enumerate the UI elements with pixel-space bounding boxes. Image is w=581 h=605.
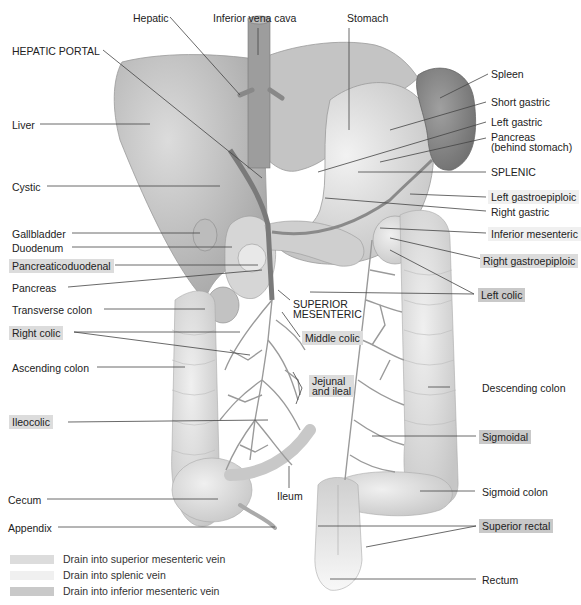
label-spleen: Spleen	[491, 68, 524, 80]
label-left-gastroepiploic: Left gastroepiploic	[488, 190, 579, 204]
label-descending-colon: Descending colon	[482, 382, 565, 394]
label-right-colic: Right colic	[9, 326, 63, 340]
label-sigmoid-colon: Sigmoid colon	[482, 486, 548, 498]
label-ileocolic: Ileocolic	[9, 415, 53, 429]
label-short-gastric: Short gastric	[491, 96, 550, 108]
label-ileum: Ileum	[277, 490, 303, 502]
label-superior-mesenteric: SUPERIOR MESENTERIC	[293, 299, 362, 319]
label-jejunal-and-ileal: Jejunal and ileal	[309, 375, 354, 397]
label-duodenum: Duodenum	[12, 242, 63, 254]
label-hepatic-portal: HEPATIC PORTAL	[12, 45, 100, 57]
label-rectum: Rectum	[482, 574, 518, 586]
jejunal-line-2: and ileal	[312, 385, 351, 397]
pancreas-line-2: (behind stomach)	[491, 141, 572, 153]
descending-colon-shape	[400, 210, 458, 506]
label-pancreas-behind-stomach: Pancreas (behind stomach)	[491, 132, 572, 152]
label-right-gastroepiploic: Right gastroepiploic	[480, 254, 578, 268]
legend-label: Drain into inferior mesenteric vein	[63, 585, 219, 597]
label-inferior-mesenteric: Inferior mesenteric	[488, 227, 581, 241]
label-superior-rectal: Superior rectal	[479, 519, 553, 533]
label-right-gastric: Right gastric	[491, 206, 549, 218]
label-cecum: Cecum	[8, 494, 41, 506]
label-left-colic: Left colic	[478, 288, 525, 302]
legend-label: Drain into splenic vein	[63, 569, 166, 581]
label-stomach: Stomach	[347, 12, 388, 24]
legend-item-splenic: Drain into splenic vein	[10, 569, 350, 583]
label-cystic: Cystic	[12, 181, 41, 193]
legend-item-superior-mesenteric: Drain into superior mesenteric vein	[10, 553, 350, 567]
label-left-gastric: Left gastric	[491, 116, 542, 128]
superior-mesenteric-line-2: MESENTERIC	[293, 308, 362, 320]
label-pancreas: Pancreas	[12, 282, 56, 294]
label-splenic: SPLENIC	[491, 166, 536, 178]
legend-swatch	[10, 555, 54, 564]
legend-label: Drain into superior mesenteric vein	[63, 553, 225, 565]
label-sigmoidal: Sigmoidal	[479, 430, 531, 444]
legend-item-inferior-mesenteric: Drain into inferior mesenteric vein	[10, 585, 350, 599]
label-ascending-colon: Ascending colon	[12, 362, 89, 374]
label-liver: Liver	[12, 119, 35, 131]
label-inferior-vena-cava: Inferior vena cava	[213, 12, 296, 24]
cecum-shape	[172, 458, 252, 522]
label-middle-colic: Middle colic	[302, 331, 363, 345]
label-gallbladder: Gallbladder	[12, 228, 66, 240]
label-hepatic: Hepatic	[133, 12, 169, 24]
label-transverse-colon: Transverse colon	[12, 304, 92, 316]
label-appendix: Appendix	[8, 522, 52, 534]
label-pancreaticoduodenal: Pancreaticoduodenal	[9, 259, 114, 273]
legend-swatch	[10, 587, 54, 596]
legend-swatch	[10, 571, 54, 580]
